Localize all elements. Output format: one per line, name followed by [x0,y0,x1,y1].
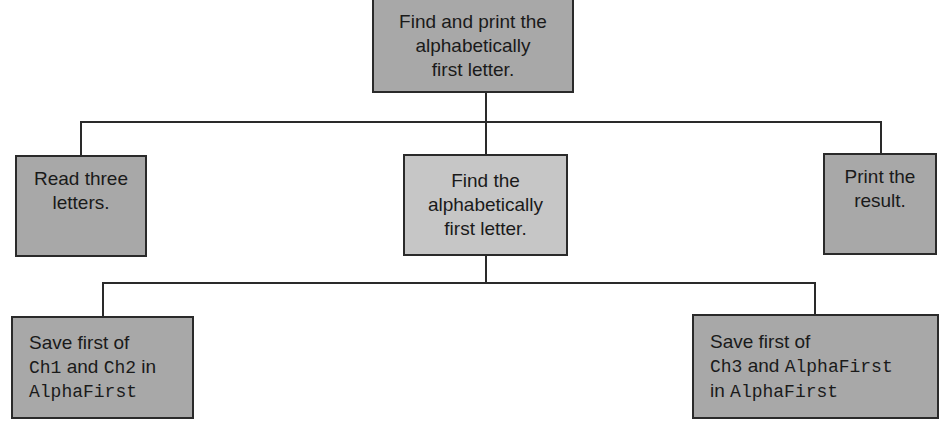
code-alphafirst: AlphaFirst [785,357,893,377]
node-save1-line3: AlphaFirst [29,380,137,404]
node-find-line3: first letter. [444,217,526,241]
code-ch1: Ch1 [29,358,61,378]
node-root-line3: first letter. [432,58,514,82]
connector-find-down [485,255,487,284]
node-save1-line2: Ch1 and Ch2 in [29,355,156,380]
node-root: Find and print the alphabetically first … [372,0,574,93]
connector-to-print [880,121,882,154]
node-save2-line2: Ch3 and AlphaFirst [710,354,893,379]
connector-level2-bus [102,282,816,284]
node-print-line1: Print the [845,165,916,189]
connector-to-save1 [102,282,104,317]
node-find-line2: alphabetically [428,193,543,217]
node-save2-line3: in AlphaFirst [710,379,838,404]
connector-to-find [485,121,487,155]
node-root-line2: alphabetically [415,34,530,58]
code-ch2: Ch2 [104,358,136,378]
node-save-ch3-alphafirst: Save first of Ch3 and AlphaFirst in Alph… [692,314,939,419]
node-read-line2: letters. [52,191,109,215]
node-read-letters: Read three letters. [15,155,147,257]
node-save1-line1: Save first of [29,331,129,355]
node-print-result: Print the result. [823,153,937,255]
text-and: and [742,355,784,376]
node-find-line1: Find the [451,169,520,193]
connector-to-read [80,121,82,155]
code-alphafirst: AlphaFirst [730,382,838,402]
code-ch3: Ch3 [710,357,742,377]
text-in: in [710,380,730,401]
node-read-line1: Read three [34,167,128,191]
node-root-line1: Find and print the [399,10,547,34]
connector-to-save2 [814,282,816,315]
text-in: in [136,356,156,377]
connector-root-down [485,92,487,122]
text-and: and [61,356,103,377]
node-save-ch1-ch2: Save first of Ch1 and Ch2 in AlphaFirst [11,316,194,419]
node-save2-line1: Save first of [710,330,810,354]
node-print-line2: result. [854,189,906,213]
node-find-first: Find the alphabetically first letter. [403,154,568,256]
connector-level1-bus [80,121,882,123]
